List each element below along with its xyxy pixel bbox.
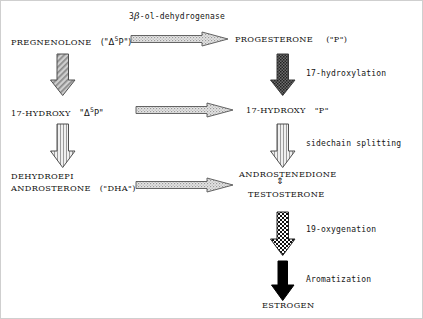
arrow-aromatization-to-estrogen bbox=[268, 260, 298, 302]
node-17-hydroxy-p-abbrev: "P" bbox=[315, 105, 329, 115]
arrow-testosterone-to-19-oxygenation bbox=[268, 211, 298, 257]
node-pregnenolone: PREGNENOLONE ("Δ5P") bbox=[11, 33, 132, 48]
arrow-pregnenolone-to-17-hydroxy-delta5p bbox=[48, 53, 78, 97]
node-estrogen: ESTROGEN bbox=[262, 299, 314, 311]
enzyme-label-sidechain-splitting: sidechain splitting bbox=[306, 139, 401, 148]
node-17-hydroxy-p-name: 17-HYDROXY bbox=[246, 105, 306, 115]
arrow-progesterone-to-17-hydroxy-p bbox=[268, 53, 298, 97]
equilibrium-arrow-icon: ⇕ bbox=[276, 177, 284, 186]
arrow-17-hydroxy-delta5p-to-dha bbox=[48, 123, 78, 169]
node-17-hydroxy-p: 17-HYDROXY "P" bbox=[246, 104, 329, 116]
node-dha-line2-wrap: ANDROSTERONE ("DHA") bbox=[11, 183, 136, 195]
node-17-hydroxy-delta5p: 17-HYDROXY "Δ5P" bbox=[11, 104, 104, 119]
node-dha-line2: ANDROSTERONE bbox=[11, 183, 91, 193]
enzyme-label-17-hydroxylation: 17-hydroxylation bbox=[306, 69, 386, 78]
node-dehydroepiandrosterone: DEHYDROEPI ANDROSTERONE ("DHA") bbox=[11, 171, 136, 194]
arrow-17-hydroxy-delta5p-to-17-hydroxy-p bbox=[135, 102, 235, 118]
node-17-hydroxy-delta5p-name: 17-HYDROXY bbox=[11, 108, 71, 118]
arrow-17-hydroxy-p-to-androstenedione bbox=[268, 123, 298, 169]
node-pregnenolone-abbrev: ("Δ5P") bbox=[101, 37, 132, 47]
steroidogenesis-diagram: 3β-ol-dehydrogenase PREGNENOLONE ("Δ5P")… bbox=[0, 0, 423, 319]
node-17-hydroxy-delta5p-abbrev: "Δ5P" bbox=[80, 108, 104, 118]
node-androstenedione: ANDROSTENEDIONE bbox=[239, 168, 337, 180]
node-progesterone: PROGESTERONE ("P") bbox=[235, 33, 347, 45]
node-dha-abbrev: ("DHA") bbox=[100, 183, 136, 193]
node-pregnenolone-name: PREGNENOLONE bbox=[11, 37, 92, 47]
node-progesterone-name: PROGESTERONE bbox=[235, 34, 313, 44]
enzyme-label-3b-ol-dehydrogenase: 3β-ol-dehydrogenase bbox=[129, 10, 225, 21]
arrow-pregnenolone-to-progesterone bbox=[130, 31, 230, 47]
node-dha-line1: DEHYDROEPI bbox=[11, 171, 136, 183]
enzyme-suffix: -ol-dehydrogenase bbox=[140, 12, 225, 21]
node-progesterone-abbrev: ("P") bbox=[326, 34, 347, 44]
arrow-dha-to-androstenedione bbox=[135, 177, 235, 193]
node-testosterone: TESTOSTERONE bbox=[248, 188, 324, 200]
enzyme-label-19-oxygenation: 19-oxygenation bbox=[306, 225, 376, 234]
enzyme-label-aromatization: Aromatization bbox=[306, 275, 371, 284]
